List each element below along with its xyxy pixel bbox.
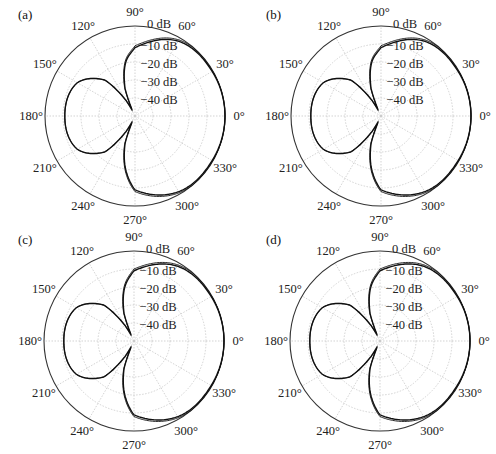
- angle-tick-label: 210°: [32, 386, 56, 400]
- radial-tick-label: −20 dB: [139, 282, 176, 296]
- angle-tick-label: 240°: [316, 424, 340, 438]
- angle-tick-label: 150°: [279, 57, 303, 71]
- radial-tick-label: −40 dB: [140, 93, 177, 107]
- angle-tick-label: 30°: [462, 57, 480, 71]
- angle-tick-label: 210°: [278, 386, 302, 400]
- polar-panel-a: (a) 0°30°60°90°120°150°180°210°240°270°3…: [0, 0, 248, 227]
- polar-panel-d: (d) 0°30°60°90°120°150°180°210°240°270°3…: [248, 225, 496, 452]
- angle-tick-label: 330°: [213, 161, 237, 175]
- angle-tick-label: 270°: [368, 438, 392, 452]
- polar-plot: 0°30°60°90°120°150°180°210°240°270°300°3…: [0, 225, 248, 452]
- angle-tick-label: 300°: [174, 424, 198, 438]
- angle-tick-label: 150°: [278, 282, 302, 296]
- angle-tick-label: 90°: [371, 230, 389, 244]
- polar-panel-c: (c) 0°30°60°90°120°150°180°210°240°270°3…: [0, 225, 248, 452]
- angle-tick-label: 210°: [279, 161, 303, 175]
- angle-tick-label: 240°: [71, 199, 95, 213]
- angle-tick-label: 150°: [32, 282, 56, 296]
- polar-panel-b: (b) 0°30°60°90°120°150°180°210°240°270°3…: [248, 0, 496, 227]
- angle-tick-label: 330°: [459, 161, 483, 175]
- radial-tick-labels: 0 dB−10 dB−20 dB−30 dB−40 dB: [136, 242, 180, 332]
- radial-tick-label: 0 dB: [147, 17, 171, 31]
- angle-tick-label: 0°: [478, 334, 489, 348]
- angle-tick-label: 150°: [33, 57, 57, 71]
- radial-tick-label: 0 dB: [392, 242, 416, 256]
- angle-tick-label: 240°: [317, 199, 341, 213]
- radial-tick-label: −40 dB: [139, 318, 176, 332]
- angle-tick-label: 120°: [316, 244, 340, 258]
- angle-tick-label: 90°: [372, 5, 390, 19]
- radial-tick-label: −20 dB: [140, 57, 177, 71]
- angle-tick-label: 120°: [317, 19, 341, 33]
- angle-tick-label: 90°: [126, 5, 144, 19]
- angle-tick-label: 330°: [212, 386, 236, 400]
- radial-tick-label: −40 dB: [386, 93, 423, 107]
- angle-tick-label: 90°: [125, 230, 143, 244]
- radial-tick-labels: 0 dB−10 dB−20 dB−30 dB−40 dB: [137, 17, 181, 107]
- radial-tick-label: −40 dB: [385, 318, 422, 332]
- angle-tick-label: 0°: [479, 109, 490, 123]
- angle-tick-label: 120°: [71, 19, 95, 33]
- angle-tick-label: 300°: [175, 199, 199, 213]
- angle-tick-label: 180°: [19, 109, 43, 123]
- radial-tick-labels: 0 dB−10 dB−20 dB−30 dB−40 dB: [383, 17, 427, 107]
- angle-tick-label: 0°: [233, 109, 244, 123]
- radial-tick-labels: 0 dB−10 dB−20 dB−30 dB−40 dB: [382, 242, 426, 332]
- angle-tick-label: 300°: [420, 424, 444, 438]
- radial-tick-label: −30 dB: [386, 75, 423, 89]
- radial-tick-label: −30 dB: [140, 75, 177, 89]
- angle-tick-label: 30°: [461, 282, 479, 296]
- angle-tick-label: 180°: [265, 109, 289, 123]
- angle-tick-label: 210°: [33, 161, 57, 175]
- angle-tick-label: 270°: [122, 438, 146, 452]
- angle-tick-label: 240°: [70, 424, 94, 438]
- radial-tick-label: −20 dB: [386, 57, 423, 71]
- angle-tick-label: 30°: [216, 57, 234, 71]
- radial-tick-label: −30 dB: [139, 300, 176, 314]
- angle-tick-label: 180°: [18, 334, 42, 348]
- polar-plot: 0°30°60°90°120°150°180°210°240°270°300°3…: [248, 0, 496, 227]
- radial-tick-label: −30 dB: [385, 300, 422, 314]
- angle-tick-label: 30°: [215, 282, 233, 296]
- angle-tick-label: 180°: [264, 334, 288, 348]
- radial-tick-label: 0 dB: [146, 242, 170, 256]
- angle-tick-label: 0°: [232, 334, 243, 348]
- radial-tick-label: 0 dB: [393, 17, 417, 31]
- radial-tick-label: −20 dB: [385, 282, 422, 296]
- angle-tick-label: 300°: [421, 199, 445, 213]
- angle-tick-label: 120°: [70, 244, 94, 258]
- polar-plot: 0°30°60°90°120°150°180°210°240°270°300°3…: [248, 225, 496, 452]
- angle-tick-label: 330°: [458, 386, 482, 400]
- polar-plot: 0°30°60°90°120°150°180°210°240°270°300°3…: [0, 0, 248, 227]
